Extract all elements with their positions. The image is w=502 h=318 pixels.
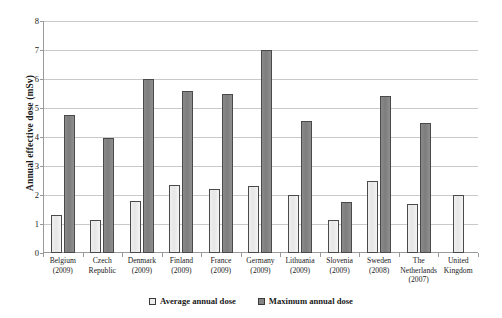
- bar-maximum-annual-dose: [420, 123, 431, 254]
- bar-average-annual-dose: [407, 204, 418, 253]
- y-axis-tick-label: 5: [26, 104, 39, 112]
- bar-average-annual-dose: [288, 195, 299, 253]
- bar-group: [43, 21, 83, 253]
- x-axis-category-label: Belgium(2009): [43, 256, 83, 275]
- bar-group: [201, 21, 241, 253]
- bar-series-container: [43, 21, 478, 253]
- x-axis-label-line: (2009): [43, 266, 83, 276]
- x-axis-label-line: Kingdom: [438, 266, 478, 276]
- bar-average-annual-dose: [209, 189, 220, 253]
- x-axis-label-line: (2008): [359, 266, 399, 276]
- bar-group: [162, 21, 202, 253]
- x-axis-label-line: Lithuania: [280, 256, 320, 266]
- chart-legend: Average annual doseMaximum annual dose: [0, 296, 502, 306]
- x-axis-category-label: Finland(2009): [162, 256, 202, 275]
- x-axis-label-line: Slovenia: [320, 256, 360, 266]
- bar-average-annual-dose: [90, 220, 101, 253]
- x-axis-label-line: Denmark: [122, 256, 162, 266]
- bar-group: [122, 21, 162, 253]
- bar-group: [438, 21, 478, 253]
- bar-group: [359, 21, 399, 253]
- bar-average-annual-dose: [51, 215, 62, 253]
- bar-maximum-annual-dose: [301, 121, 312, 253]
- bar-chart: Annual effective dose (mSv) 876543210 Be…: [0, 0, 502, 318]
- x-axis-label-line: (2009): [241, 266, 281, 276]
- y-axis-tick-label: 6: [26, 75, 39, 83]
- x-axis-label-line: France: [201, 256, 241, 266]
- x-axis-label-line: Czech: [83, 256, 123, 266]
- bar-group: [241, 21, 281, 253]
- x-axis-category-label: France(2009): [201, 256, 241, 275]
- x-axis-category-label: Sweden(2008): [359, 256, 399, 275]
- y-axis-tick-label: 7: [26, 46, 39, 54]
- bar-average-annual-dose: [453, 195, 464, 253]
- bar-maximum-annual-dose: [341, 202, 352, 253]
- x-axis-category-label: CzechRepublic: [83, 256, 123, 275]
- bar-maximum-annual-dose: [182, 91, 193, 253]
- x-axis-label-line: The: [399, 256, 439, 266]
- x-axis-label-line: Belgium: [43, 256, 83, 266]
- bar-maximum-annual-dose: [64, 115, 75, 253]
- bar-maximum-annual-dose: [143, 79, 154, 253]
- bar-average-annual-dose: [328, 220, 339, 253]
- y-axis-tick-label: 0: [26, 249, 39, 257]
- legend-label: Average annual dose: [160, 296, 236, 306]
- x-axis-label-line: Finland: [162, 256, 202, 266]
- legend-item: Maximum annual dose: [258, 296, 353, 306]
- bar-maximum-annual-dose: [380, 96, 391, 253]
- legend-item: Average annual dose: [149, 296, 236, 306]
- x-axis-category-label: Germany(2009): [241, 256, 281, 275]
- x-axis-category-label: UnitedKingdom: [438, 256, 478, 275]
- bar-average-annual-dose: [130, 201, 141, 253]
- bar-group: [399, 21, 439, 253]
- legend-label: Maximum annual dose: [269, 296, 353, 306]
- legend-swatch-average: [149, 298, 156, 305]
- x-axis-label-line: (2007): [399, 275, 439, 285]
- x-axis-label-line: Netherlands: [399, 266, 439, 276]
- x-axis-label-line: (2009): [122, 266, 162, 276]
- x-axis-category-label: Denmark(2009): [122, 256, 162, 275]
- bar-average-annual-dose: [248, 186, 259, 253]
- x-axis-category-label: Lithuania(2009): [280, 256, 320, 275]
- bar-group: [83, 21, 123, 253]
- x-axis-label-line: (2009): [162, 266, 202, 276]
- x-axis-label-line: (2009): [320, 266, 360, 276]
- y-axis-tick-label: 1: [26, 220, 39, 228]
- x-axis-label-line: United: [438, 256, 478, 266]
- x-axis-label-line: Republic: [83, 266, 123, 276]
- y-axis-tick-label: 2: [26, 191, 39, 199]
- legend-swatch-maximum: [258, 298, 265, 305]
- x-axis-label-line: Germany: [241, 256, 281, 266]
- x-axis-label-line: Sweden: [359, 256, 399, 266]
- bar-average-annual-dose: [367, 181, 378, 254]
- bar-group: [280, 21, 320, 253]
- x-axis-labels: Belgium(2009)CzechRepublicDenmark(2009)F…: [43, 256, 478, 290]
- x-axis-category-label: TheNetherlands(2007): [399, 256, 439, 285]
- x-axis-label-line: (2009): [201, 266, 241, 276]
- bar-average-annual-dose: [169, 185, 180, 253]
- x-axis-tick-mark: [478, 253, 479, 257]
- x-axis-category-label: Slovenia(2009): [320, 256, 360, 275]
- x-axis-label-line: (2009): [280, 266, 320, 276]
- y-axis-tick-label: 3: [26, 162, 39, 170]
- y-axis-tick-label: 4: [26, 133, 39, 141]
- bar-group: [320, 21, 360, 253]
- bar-maximum-annual-dose: [261, 50, 272, 253]
- bar-maximum-annual-dose: [103, 138, 114, 253]
- bar-maximum-annual-dose: [222, 94, 233, 254]
- y-axis-tick-label: 8: [26, 17, 39, 25]
